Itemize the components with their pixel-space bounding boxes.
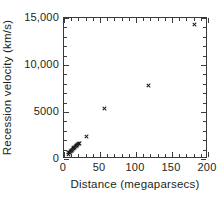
y-axis-minor-tick — [64, 46, 67, 47]
data-point-marker — [71, 146, 76, 151]
x-axis-minor-tick — [78, 154, 79, 157]
x-tick-label: 200 — [198, 161, 217, 174]
y-axis-major-tick — [64, 65, 69, 66]
y-axis-major-tick — [64, 112, 69, 113]
x-axis-minor-tick — [150, 154, 151, 157]
hubble-diagram-figure: Recession velocity (km/s) 0500010,00015,… — [0, 0, 224, 198]
y-axis-major-tick — [201, 112, 206, 113]
x-tick-label: 100 — [126, 161, 145, 174]
x-tick-label: 150 — [162, 161, 181, 174]
x-axis-minor-tick — [71, 18, 72, 21]
x-axis-minor-tick — [78, 18, 79, 21]
y-axis-minor-tick — [203, 27, 206, 28]
x-axis-minor-tick — [186, 154, 187, 157]
y-axis-major-tick — [201, 18, 206, 19]
x-axis-major-tick — [64, 152, 65, 157]
x-tick-label: 50 — [93, 161, 106, 174]
y-tick-label: 10,000 — [24, 58, 59, 71]
y-axis-label: Recession velocity (km/s) — [0, 17, 14, 158]
y-axis-minor-tick — [64, 121, 67, 122]
x-axis-minor-tick — [107, 154, 108, 157]
x-axis-major-tick — [172, 152, 173, 157]
y-axis-minor-tick — [203, 140, 206, 141]
y-axis-minor-tick — [203, 103, 206, 104]
x-axis-minor-tick — [143, 154, 144, 157]
x-axis-minor-tick — [107, 18, 108, 21]
x-axis-minor-tick — [201, 154, 202, 157]
y-axis-major-tick — [64, 159, 69, 160]
x-axis-minor-tick — [129, 154, 130, 157]
y-tick-label: 5000 — [34, 105, 59, 118]
x-axis-minor-tick — [129, 18, 130, 21]
x-tick-label: 0 — [60, 161, 66, 174]
y-axis-minor-tick — [203, 84, 206, 85]
y-axis-minor-tick — [203, 74, 206, 75]
y-tick-label: 0 — [53, 152, 59, 165]
data-point-marker — [77, 141, 82, 146]
x-axis-minor-tick — [150, 18, 151, 21]
data-point-marker — [103, 106, 108, 111]
y-axis-minor-tick — [203, 46, 206, 47]
x-axis-minor-tick — [165, 154, 166, 157]
x-axis-minor-tick — [143, 18, 144, 21]
x-axis-minor-tick — [194, 18, 195, 21]
x-axis-label: Distance (megaparsecs) — [63, 177, 207, 191]
data-point-marker — [193, 22, 198, 27]
y-axis-minor-tick — [64, 93, 67, 94]
x-axis-minor-tick — [71, 154, 72, 157]
y-axis-minor-tick — [64, 140, 67, 141]
x-axis-minor-tick — [194, 154, 195, 157]
data-point-marker — [75, 142, 80, 147]
x-axis-minor-tick — [114, 18, 115, 21]
data-point-marker — [66, 152, 71, 157]
y-axis-minor-tick — [203, 37, 206, 38]
y-axis-major-tick — [201, 65, 206, 66]
data-point-marker — [69, 148, 74, 153]
x-axis-minor-tick — [158, 18, 159, 21]
x-axis-major-tick — [208, 152, 209, 157]
x-axis-minor-tick — [179, 154, 180, 157]
x-axis-major-tick — [100, 18, 101, 23]
data-point-marker — [73, 144, 78, 149]
x-axis-major-tick — [208, 18, 209, 23]
y-axis-minor-tick — [203, 131, 206, 132]
x-axis-minor-tick — [122, 154, 123, 157]
x-axis-minor-tick — [165, 18, 166, 21]
x-axis-minor-tick — [158, 154, 159, 157]
data-point-marker — [146, 83, 151, 88]
y-axis-minor-tick — [64, 27, 67, 28]
data-point-marker — [84, 134, 89, 139]
x-axis-minor-tick — [179, 18, 180, 21]
y-axis-minor-tick — [203, 56, 206, 57]
y-axis-minor-tick — [64, 56, 67, 57]
y-axis-major-tick — [201, 159, 206, 160]
data-point-marker — [72, 145, 77, 150]
y-axis-minor-tick — [64, 103, 67, 104]
y-axis-minor-tick — [64, 74, 67, 75]
data-point-marker — [69, 148, 74, 153]
x-axis-minor-tick — [114, 154, 115, 157]
y-axis-minor-tick — [64, 37, 67, 38]
x-axis-major-tick — [136, 152, 137, 157]
y-axis-minor-tick — [203, 150, 206, 151]
data-point-marker — [74, 143, 79, 148]
y-tick-label: 15,000 — [24, 11, 59, 24]
data-point-marker — [76, 141, 81, 146]
x-axis-major-tick — [100, 152, 101, 157]
data-point-marker — [72, 145, 77, 150]
x-axis-major-tick — [172, 18, 173, 23]
y-axis-minor-tick — [203, 121, 206, 122]
y-axis-major-tick — [64, 18, 69, 19]
x-axis-minor-tick — [86, 18, 87, 21]
y-axis-minor-tick — [64, 84, 67, 85]
data-point-marker — [70, 147, 75, 152]
x-axis-minor-tick — [186, 18, 187, 21]
x-axis-minor-tick — [93, 154, 94, 157]
data-point-marker — [74, 143, 79, 148]
plot-area — [63, 17, 207, 158]
y-axis-minor-tick — [203, 93, 206, 94]
x-axis-minor-tick — [122, 18, 123, 21]
x-axis-minor-tick — [86, 154, 87, 157]
y-axis-minor-tick — [64, 131, 67, 132]
x-axis-minor-tick — [93, 18, 94, 21]
